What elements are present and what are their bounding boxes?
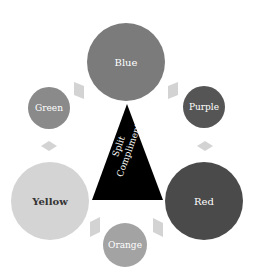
connector-yellow-orange (90, 217, 100, 237)
connector-blue-purple (168, 82, 178, 99)
node-yellow-label: Yellow (32, 196, 68, 207)
node-blue: Blue (87, 23, 165, 101)
node-yellow: Yellow (11, 162, 89, 240)
connector-purple-red (197, 141, 213, 151)
node-purple-label: Purple (189, 102, 219, 112)
node-red-label: Red (194, 196, 214, 207)
node-green: Green (28, 87, 70, 129)
node-green-label: Green (35, 103, 63, 113)
node-blue-label: Blue (115, 57, 138, 68)
node-orange: Orange (103, 223, 147, 267)
connector-red-orange (153, 218, 163, 237)
node-purple: Purple (183, 86, 225, 128)
node-orange-label: Orange (108, 240, 142, 250)
connector-green-yellow (41, 141, 57, 151)
node-red: Red (165, 162, 243, 240)
connector-blue-green (74, 82, 84, 99)
